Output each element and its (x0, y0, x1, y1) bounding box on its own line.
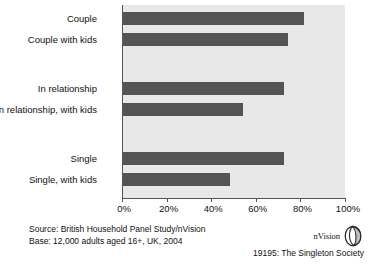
source-line: Source: British Household Panel Study/nV… (29, 224, 206, 236)
sphere-icon (342, 225, 364, 247)
bar-single (123, 152, 284, 165)
bar-in-relationship-with-kids (123, 103, 243, 116)
x-tick-80 (300, 198, 301, 202)
x-tick-label-80: 80% (293, 203, 312, 214)
category-label-couple-with-kids: Couple with kids (28, 34, 97, 45)
x-tick-60 (256, 198, 257, 202)
bar-chart: Couple Couple with kids In relationship … (0, 0, 375, 266)
source-notes: Source: British Household Panel Study/nV… (29, 224, 206, 247)
category-label-in-relationship: In relationship (38, 83, 97, 94)
x-tick-label-40: 40% (204, 203, 223, 214)
logo-text: nVision (314, 231, 340, 241)
x-tick-40 (211, 198, 212, 202)
x-tick-0 (122, 198, 123, 202)
category-label-couple: Couple (67, 13, 97, 24)
logo-row: nVision (314, 225, 364, 247)
category-label-single-with-kids: Single, with kids (29, 174, 97, 185)
x-tick-100 (345, 198, 346, 202)
bar-couple-with-kids (123, 33, 288, 46)
base-line: Base: 12,000 adults aged 16+, UK, 2004 (29, 236, 206, 248)
branding-block: nVision 19195: The Singleton Society (208, 225, 368, 263)
bar-in-relationship (123, 82, 284, 95)
x-tick-label-20: 20% (159, 203, 178, 214)
bar-couple (123, 12, 304, 25)
x-tick-label-0: 0% (117, 203, 131, 214)
x-tick-label-60: 60% (248, 203, 267, 214)
credit-line: 19195: The Singleton Society (253, 248, 364, 259)
bar-single-with-kids (123, 173, 230, 186)
x-tick-20 (167, 198, 168, 202)
x-tick-label-100: 100% (336, 203, 360, 214)
category-label-in-relationship-with-kids: In relationship, with kids (0, 104, 97, 115)
category-label-single: Single (71, 153, 97, 164)
x-axis-line (122, 198, 345, 199)
